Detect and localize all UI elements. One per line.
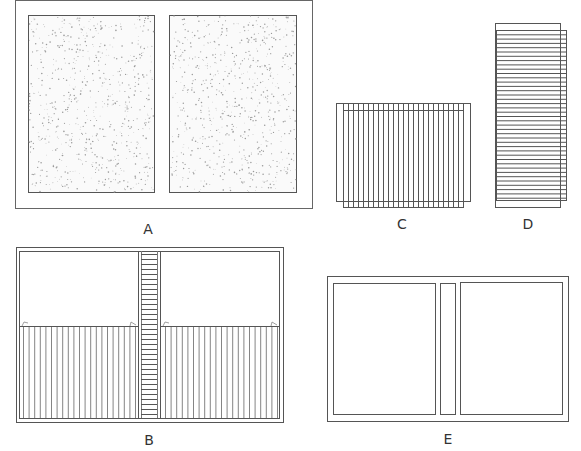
figure-b-marker-2 bbox=[130, 322, 136, 326]
figure-e-right-board bbox=[461, 283, 563, 415]
figure-e-spine bbox=[441, 284, 456, 415]
figure-e: E bbox=[328, 277, 569, 448]
figure-c-label: C bbox=[397, 216, 407, 232]
figure-e-left-board bbox=[334, 284, 436, 415]
figure-b-label: B bbox=[144, 432, 154, 448]
figure-a-left-panel bbox=[29, 16, 155, 193]
figure-b-marker-3 bbox=[163, 322, 169, 326]
figure-b-marker-4 bbox=[271, 322, 277, 326]
figure-a-label: A bbox=[143, 221, 153, 237]
figure-e-outer-frame bbox=[328, 277, 569, 422]
figure-b: B bbox=[17, 248, 284, 449]
figure-d: D bbox=[495, 24, 567, 233]
figure-e-label: E bbox=[444, 431, 453, 447]
diagram-canvas: A C D B E bbox=[0, 0, 581, 451]
figure-a: A bbox=[16, 1, 313, 238]
figure-d-label: D bbox=[523, 216, 534, 232]
figure-b-spine-rungs bbox=[141, 255, 157, 415]
figure-c: C bbox=[337, 103, 471, 232]
figure-b-marker-1 bbox=[22, 322, 28, 326]
